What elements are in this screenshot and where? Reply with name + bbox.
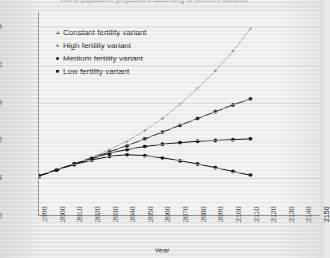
chart-legend: Constant fertility variantHigh fertility… xyxy=(52,26,147,78)
legend-item: Constant fertility variant xyxy=(52,26,147,39)
data-point xyxy=(143,145,147,149)
data-point xyxy=(161,117,164,120)
legend-item: High fertility variant xyxy=(52,39,147,52)
data-point xyxy=(231,103,235,107)
data-point xyxy=(196,117,200,121)
data-point xyxy=(213,110,217,114)
x-tick-label: 2130 xyxy=(288,206,295,222)
triangle-marker xyxy=(52,31,63,34)
data-point xyxy=(125,148,129,152)
data-point xyxy=(90,158,94,162)
data-point xyxy=(213,139,217,143)
data-point xyxy=(161,142,165,146)
data-point xyxy=(108,148,111,151)
x-tick-label: 2100 xyxy=(235,206,242,222)
small-dot-marker xyxy=(52,44,63,47)
data-point xyxy=(231,138,235,142)
y-tick-label: 5 xyxy=(0,173,2,182)
x-tick-label: 2000 xyxy=(59,206,66,222)
x-tick-label: 2030 xyxy=(112,206,119,222)
data-point xyxy=(249,97,253,101)
data-point xyxy=(214,70,217,73)
data-point xyxy=(144,129,147,132)
data-point xyxy=(143,137,147,141)
y-tick-label: 25 xyxy=(0,22,2,31)
data-point xyxy=(161,156,165,160)
data-point xyxy=(249,137,253,141)
x-tick-label: 2060 xyxy=(164,206,171,222)
data-point xyxy=(108,154,112,158)
series-line xyxy=(39,155,251,176)
legend-label: Low fertility variant xyxy=(63,67,129,76)
x-tick-label: 2010 xyxy=(76,206,83,222)
data-point xyxy=(125,144,129,148)
x-tick-label: 2050 xyxy=(147,206,154,222)
data-point xyxy=(196,87,199,90)
data-point xyxy=(178,159,182,163)
y-tick-label: 0 xyxy=(0,211,2,220)
y-tick-label: 15 xyxy=(0,98,2,107)
x-tick-label: 2110 xyxy=(253,207,260,222)
y-tick-label: 10 xyxy=(0,135,2,144)
data-point xyxy=(125,153,129,157)
data-point xyxy=(178,141,182,145)
x-tick-label: 2080 xyxy=(200,206,207,222)
x-axis-label: Year xyxy=(0,246,324,255)
legend-label: High fertility variant xyxy=(63,41,131,50)
x-tick-label: 2090 xyxy=(217,206,224,222)
data-point xyxy=(249,173,253,177)
x-tick-label: 2150 xyxy=(323,206,330,222)
data-point xyxy=(196,162,200,166)
x-tick-label: 2140 xyxy=(305,206,312,222)
dot-marker xyxy=(52,57,63,60)
data-point xyxy=(126,140,129,143)
data-point xyxy=(249,27,252,30)
y-tick-label: 20 xyxy=(0,60,2,69)
x-tick-label: 2040 xyxy=(129,206,136,222)
square-marker xyxy=(52,70,63,73)
data-point xyxy=(196,139,200,143)
x-tick-label: 2070 xyxy=(182,206,189,222)
data-point xyxy=(161,130,165,134)
data-point xyxy=(178,123,182,127)
chart-title: World population projections according t… xyxy=(60,0,324,6)
data-point xyxy=(231,170,235,174)
x-tick-label: 2020 xyxy=(94,206,101,222)
data-point xyxy=(143,154,147,158)
legend-label: Constant fertility variant xyxy=(63,28,147,37)
data-point xyxy=(213,166,217,170)
legend-item: Medium fertility variant xyxy=(52,52,147,65)
data-point xyxy=(39,174,41,178)
data-point xyxy=(55,168,59,172)
data-point xyxy=(232,50,235,53)
legend-item: Low fertility variant xyxy=(52,65,147,78)
data-point xyxy=(179,103,182,106)
x-tick-label: 1990 xyxy=(41,206,48,222)
x-tick-label: 2120 xyxy=(270,206,277,222)
data-point xyxy=(72,163,76,167)
legend-label: Medium fertility variant xyxy=(63,54,143,63)
